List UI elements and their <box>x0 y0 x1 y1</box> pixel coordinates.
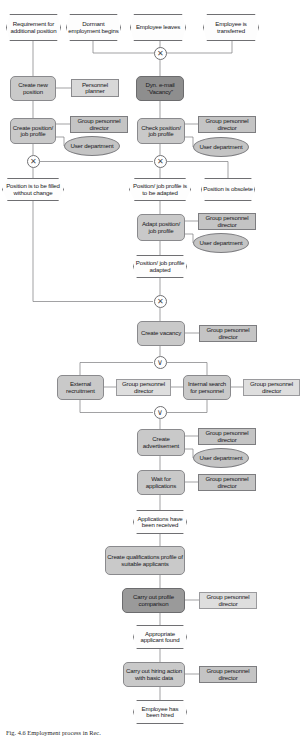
function-wait-for-applications: Wait for applications <box>137 470 185 495</box>
function-create-advertisement: Create advertisement <box>137 429 185 456</box>
flowchart-canvas: Requirement for additional position Dorm… <box>0 0 304 743</box>
org-user-department-2: User department <box>193 137 249 157</box>
org-group-personnel-director-5: Group personnel director <box>116 379 171 396</box>
org-group-personnel-director-3: Group personnel director <box>198 213 256 230</box>
event-employee-hired: Employee has been hired <box>133 700 187 724</box>
event-position-job-profile-to-be-adapted: Position/ job profile is to be adapted <box>129 178 191 201</box>
event-position-job-profile-adapted: Position/ job profile adapted <box>133 255 187 278</box>
org-group-personnel-director-7: Group personnel director <box>198 428 256 445</box>
event-appropriate-applicant-found: Appropriate applicant found <box>133 625 187 649</box>
org-user-department-3: User department <box>193 233 249 253</box>
org-personnel-planner: Personnel planner <box>71 79 119 97</box>
org-group-personnel-director-8: Group personnel director <box>198 474 256 491</box>
function-internal-search-for-personnel: Internal search for personnel <box>183 375 231 400</box>
org-group-personnel-director-1: Group personnel director <box>70 116 128 133</box>
connector-xor-1: ✕ <box>154 47 167 60</box>
event-employee-transferred: Employee is transferred <box>203 14 259 41</box>
org-user-department-4: User department <box>193 448 249 468</box>
event-employee-leaves: Employee leaves <box>130 14 186 41</box>
function-create-vacancy: Create vacancy <box>137 321 185 346</box>
event-position-filled-without-change: Position is to be filled without change <box>2 178 64 201</box>
function-create-qualifications-profile: Create qualifications profile of suitabl… <box>105 546 185 575</box>
connector-or-1: ∨ <box>154 356 167 369</box>
connector-xor-3: ✕ <box>154 155 167 168</box>
event-dormant-employment-begins: Dormant employment begins <box>66 14 121 41</box>
event-position-obsolete: Position is obsolete <box>201 178 255 201</box>
function-create-new-position: Create new position <box>10 76 56 101</box>
connector-xor-4: ✕ <box>154 295 167 308</box>
org-group-personnel-director-4: Group personnel director <box>199 325 257 342</box>
function-carry-out-hiring-action: Carry out hiring action with basic data <box>123 662 185 687</box>
org-group-personnel-director-2: Group personnel director <box>198 116 256 133</box>
org-group-personnel-director-6: Group personnel director <box>243 379 300 396</box>
event-applications-received: Applications have been received <box>133 510 187 534</box>
function-check-position-job-profile: Check position/ job profile <box>137 118 185 144</box>
connector-xor-2: ✕ <box>27 155 40 168</box>
function-dyn-email-vacancy: Dyn. e-mail “Vacancy” <box>136 76 184 101</box>
org-user-department-1: User department <box>64 136 120 156</box>
function-external-recruitment: External recruitment <box>57 375 104 400</box>
function-carry-out-profile-comparison: Carry out profile comparison <box>122 588 185 613</box>
org-group-personnel-director-9: Group personnel director <box>199 592 257 609</box>
function-adapt-position-job-profile: Adapt position/ job profile <box>137 214 185 241</box>
connector-or-2: ∨ <box>154 406 167 419</box>
function-create-position-job-profile: Create position/ job profile <box>10 118 56 144</box>
figure-caption: Fig. 4.6 Employment process in Rec. <box>6 729 298 736</box>
org-group-personnel-director-10: Group personnel director <box>199 666 257 683</box>
event-requirement-additional-position: Requirement for additional position <box>6 14 61 41</box>
